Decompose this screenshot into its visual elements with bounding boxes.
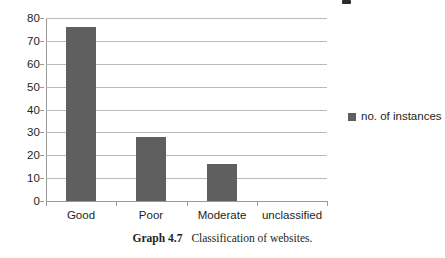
y-tick-label-50: 50	[14, 81, 40, 93]
chart-legend: no. of instances	[348, 110, 442, 123]
x-label-poor: Poor	[116, 208, 186, 222]
plot-area	[46, 18, 327, 201]
y-tick-label-20: 20	[14, 149, 40, 161]
y-tick-label-30: 30	[14, 126, 40, 138]
y-tick-mark-20	[40, 155, 44, 156]
chart-figure: 01020304050607080 GoodPoorModerateunclas…	[0, 0, 445, 258]
gridline-80	[46, 18, 327, 19]
y-tick-mark-80	[40, 18, 44, 19]
y-tick-mark-60	[40, 64, 44, 65]
x-tick-mark-0	[46, 201, 47, 206]
caption-text: Classification of websites.	[191, 232, 312, 244]
y-tick-label-0: 0	[14, 195, 40, 207]
x-tick-mark-1	[116, 201, 117, 206]
bar-good	[66, 27, 96, 201]
x-label-moderate: Moderate	[187, 208, 257, 222]
y-tick-mark-30	[40, 132, 44, 133]
y-tick-mark-0	[40, 201, 44, 202]
y-tick-mark-50	[40, 87, 44, 88]
y-tick-label-40: 40	[14, 104, 40, 116]
x-label-unclassified: unclassified	[257, 208, 327, 222]
x-tick-mark-2	[187, 201, 188, 206]
y-tick-mark-40	[40, 110, 44, 111]
y-tick-label-60: 60	[14, 58, 40, 70]
y-tick-mark-70	[40, 41, 44, 42]
x-tick-mark-4	[327, 201, 328, 206]
caption-label: Graph 4.7	[133, 232, 183, 244]
legend-swatch-icon	[348, 113, 356, 121]
figure-caption: Graph 4.7Classification of websites.	[0, 231, 445, 245]
y-tick-label-10: 10	[14, 172, 40, 184]
bar-moderate	[207, 164, 237, 201]
legend-label-no-of-instances: no. of instances	[361, 110, 442, 123]
x-axis-category-labels: GoodPoorModerateunclassified	[46, 208, 327, 224]
y-tick-label-80: 80	[14, 12, 40, 24]
y-axis-tick-labels: 01020304050607080	[8, 18, 40, 201]
bar-poor	[136, 137, 166, 201]
x-label-good: Good	[46, 208, 116, 222]
x-tick-mark-3	[257, 201, 258, 206]
cropped-text-fragment	[342, 0, 351, 4]
y-tick-label-70: 70	[14, 35, 40, 47]
y-tick-mark-10	[40, 178, 44, 179]
